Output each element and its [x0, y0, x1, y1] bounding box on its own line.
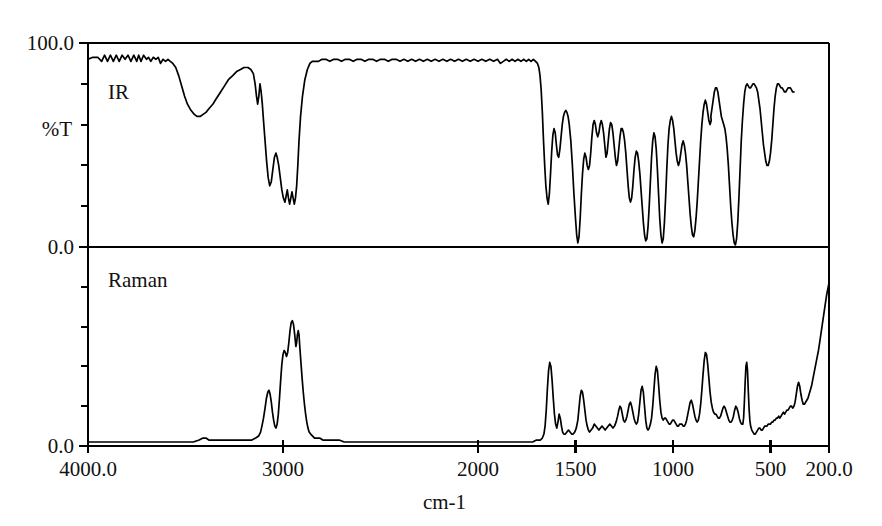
y-tick-label-ir-0: 100.0: [27, 31, 74, 55]
x-tick-label-1: 3000: [262, 457, 304, 481]
traces-layer: [88, 55, 829, 442]
y-axis-title-percent-t: %T: [42, 117, 72, 141]
x-tick-label-0: 4000.0: [59, 457, 117, 481]
x-tick-label-2: 2000: [457, 457, 499, 481]
x-tick-label-6: 200.0: [805, 457, 852, 481]
x-tick-label-5: 500: [755, 457, 787, 481]
x-axis-title: cm-1: [423, 490, 466, 514]
spectrum-trace-raman: [88, 283, 829, 442]
spectra-plot: 100.00.00.04000.03000200015001000500200.…: [0, 0, 882, 526]
x-tick-label-4: 1000: [652, 457, 694, 481]
y-tick-label-ir-5: 0.0: [48, 235, 74, 259]
spectrum-trace-ir: [88, 55, 794, 245]
panel-label-ir: IR: [108, 80, 129, 104]
y-tick-label-raman-5: 0.0: [48, 434, 74, 458]
x-tick-label-3: 1500: [555, 457, 597, 481]
spectra-figure: 100.00.00.04000.03000200015001000500200.…: [0, 0, 882, 526]
panel-label-raman: Raman: [108, 268, 168, 292]
axes-layer: [79, 43, 829, 453]
